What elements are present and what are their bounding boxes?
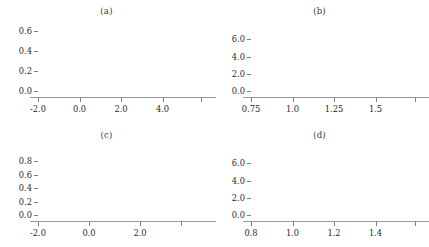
subplot-d: (d) Ratsig sample: 5000 0.8 1.0 1.2 1.4 …: [213, 124, 426, 247]
x-tick-label-a-1: 0.0: [73, 104, 86, 114]
x-tick-b-1: [293, 97, 294, 102]
y-tick-label-c-3: 0.6: [19, 170, 32, 180]
y-tick-label-b-1: 2.0: [232, 69, 245, 79]
x-tick-d-0: [251, 221, 252, 226]
y-tick-label-d-0: 0.0: [232, 210, 245, 220]
y-tick-label-c-0: 0.0: [19, 210, 32, 220]
y-tick-label-b-3: 6.0: [232, 34, 245, 44]
x-tick-c-0: [38, 221, 39, 226]
plot-area-b: Rat sample: 5000: [251, 20, 418, 94]
x-tick-label-c-0: -2.0: [30, 228, 46, 238]
x-tick-b-4: [415, 97, 416, 102]
x-tick-label-a-2: 2.0: [114, 104, 127, 114]
x-tick-label-b-0: 0.75: [242, 104, 260, 114]
density-curve-d: [252, 145, 417, 217]
density-curve-b: [252, 21, 417, 93]
x-tick-b-3: [376, 97, 377, 102]
subplot-b: (b) Rat sample: 5000 0.75 1.0 1.25 1.5 0…: [213, 0, 426, 123]
y-tick-label-a-2: 0.4: [19, 46, 32, 56]
subplot-caption-d: (d): [213, 130, 426, 140]
x-tick-label-a-3: 4.0: [156, 104, 169, 114]
y-tick-label-b-0: 0.0: [232, 86, 245, 96]
x-tick-a-3: [163, 97, 164, 102]
x-tick-c-3: [181, 221, 182, 226]
x-tick-label-d-2: 1.2: [327, 228, 340, 238]
x-tick-c-2: [140, 221, 141, 226]
density-curve-c: [39, 145, 204, 217]
x-axis-c: -2.0 0.0 2.0: [30, 221, 216, 222]
y-tick-label-d-2: 4.0: [232, 176, 245, 186]
y-tick-label-a-1: 0.2: [19, 66, 32, 76]
subplot-caption-c: (c): [0, 130, 213, 140]
x-tick-a-1: [80, 97, 81, 102]
x-tick-label-d-0: 0.8: [244, 228, 257, 238]
plot-area-c: Delta sample: 5000: [38, 144, 205, 218]
y-tick-label-b-2: 4.0: [232, 52, 245, 62]
x-tick-c-1: [89, 221, 90, 226]
y-tick-label-d-1: 2.0: [232, 193, 245, 203]
x-tick-d-2: [334, 221, 335, 226]
plot-area-d: Ratsig sample: 5000: [251, 144, 418, 218]
x-axis-d: 0.8 1.0 1.2 1.4: [243, 221, 429, 222]
y-tick-label-c-2: 0.4: [19, 183, 32, 193]
y-tick-label-a-0: 0.0: [19, 86, 32, 96]
x-axis-a: -2.0 0.0 2.0 4.0: [30, 97, 216, 98]
x-axis-b: 0.75 1.0 1.25 1.5: [243, 97, 429, 98]
x-tick-d-1: [293, 221, 294, 226]
x-tick-d-4: [415, 221, 416, 226]
x-tick-a-2: [121, 97, 122, 102]
subplot-caption-b: (b): [213, 6, 426, 16]
y-tick-label-c-4: 0.8: [19, 156, 32, 166]
x-tick-label-d-1: 1.0: [286, 228, 299, 238]
x-tick-b-0: [251, 97, 252, 102]
x-tick-a-0: [38, 97, 39, 102]
y-tick-label-c-1: 0.2: [19, 197, 32, 207]
x-tick-a-4: [201, 97, 202, 102]
density-curve-a: [39, 21, 204, 93]
x-tick-label-c-1: 0.0: [82, 228, 95, 238]
y-tick-label-d-3: 6.0: [232, 158, 245, 168]
x-tick-label-b-2: 1.25: [325, 104, 343, 114]
x-tick-label-b-3: 1.5: [369, 104, 382, 114]
x-tick-label-c-2: 2.0: [133, 228, 146, 238]
x-tick-d-3: [376, 221, 377, 226]
x-tick-b-2: [334, 97, 335, 102]
y-tick-label-a-3: 0.6: [19, 26, 32, 36]
x-tick-label-b-1: 1.0: [286, 104, 299, 114]
subplot-c: (c) Delta sample: 5000 -2.0 0.0 2.0 0.0 …: [0, 124, 213, 247]
plot-area-a: Delta sample: 5000: [38, 20, 205, 94]
x-tick-label-d-3: 1.4: [369, 228, 382, 238]
x-tick-label-a-0: -2.0: [30, 104, 46, 114]
subplot-caption-a: (a): [0, 6, 213, 16]
subplot-a: (a) Delta sample: 5000 -2.0 0.0 2.0 4.0 …: [0, 0, 213, 123]
